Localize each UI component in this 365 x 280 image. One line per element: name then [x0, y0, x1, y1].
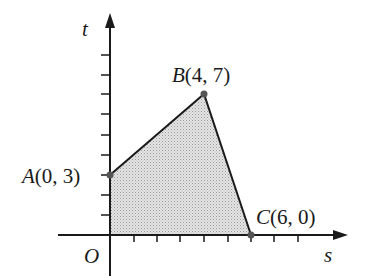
t-axis-arrow-icon: [105, 13, 115, 28]
point-a-marker: [107, 172, 114, 179]
point-b-label: B(4, 7): [172, 63, 230, 87]
point-c-marker: [248, 232, 255, 239]
point-c-label: C(6, 0): [256, 205, 316, 229]
t-axis-label: t: [82, 17, 89, 41]
t-axis-ticks: [101, 55, 110, 215]
point-b-marker: [201, 91, 208, 98]
s-axis-ticks: [134, 235, 298, 242]
feasible-region-diagram: t s O A(0, 3) B(4, 7) C(6, 0): [0, 0, 365, 280]
s-axis-arrow-icon: [333, 230, 348, 240]
point-a-label: A(0, 3): [20, 164, 80, 188]
origin-label: O: [84, 244, 99, 268]
s-axis-label: s: [324, 243, 332, 267]
